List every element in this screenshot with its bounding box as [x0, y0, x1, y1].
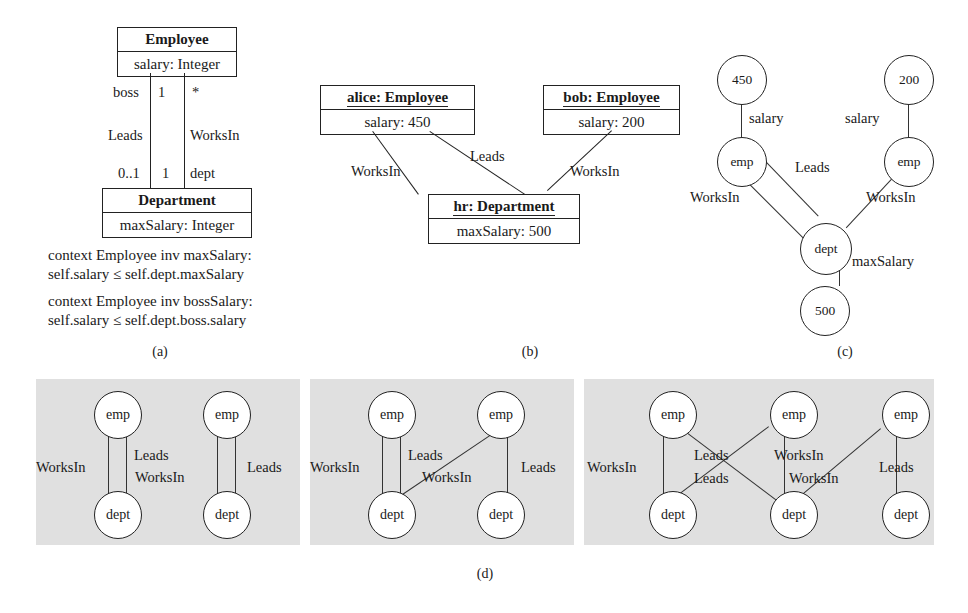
d1-node-emp-2[interactable]: emp [203, 391, 251, 439]
d1-edge-label-worksin-1: WorksIn [36, 459, 86, 475]
graph-node-emp-left[interactable]: emp [717, 137, 767, 187]
edge-label-salary-right: salary [845, 110, 880, 126]
d3-node-dept-2-label: dept [782, 507, 806, 523]
d2-node-emp-1-label: emp [380, 407, 404, 423]
graph-panel-d1: emp emp dept dept WorksIn Leads WorksIn … [36, 379, 300, 545]
graph-node-450[interactable]: 450 [717, 55, 767, 105]
object-slot-hr-maxsalary: maxSalary: 500 [429, 219, 579, 243]
graph-node-dept-label: dept [814, 241, 837, 257]
d1-node-dept-1[interactable]: dept [94, 491, 142, 539]
d3-node-emp-2-label: emp [782, 407, 806, 423]
graph-node-500-label: 500 [815, 303, 835, 319]
d1-node-emp-1-label: emp [106, 407, 130, 423]
object-box-alice[interactable]: alice: Employee salary: 450 [320, 85, 475, 135]
object-box-bob[interactable]: bob: Employee salary: 200 [543, 85, 680, 135]
d3-edge-label-leads-2: Leads [694, 470, 729, 486]
d3-edge-label-worksin-3: WorksIn [789, 470, 839, 486]
link-label-bob-worksin: WorksIn [570, 163, 620, 179]
d2-edge-label-worksin-2: WorksIn [422, 469, 472, 485]
caption-c: (c) [837, 344, 853, 360]
edge-450-emp1-salary [741, 102, 742, 137]
caption-b: (b) [522, 344, 538, 360]
d3-node-emp-3-label: emp [894, 407, 918, 423]
edge-label-worksin-right: WorksIn [866, 189, 916, 205]
d3-node-dept-1[interactable]: dept [649, 491, 697, 539]
d1-node-emp-2-label: emp [215, 407, 239, 423]
object-slot-alice-salary: salary: 450 [321, 110, 474, 134]
object-name-bob: bob: Employee [544, 86, 679, 110]
d1-node-dept-2-label: dept [215, 507, 239, 523]
d3-node-dept-2[interactable]: dept [770, 491, 818, 539]
graph-node-200-label: 200 [899, 72, 919, 88]
d3-node-emp-1-label: emp [661, 407, 685, 423]
d3-node-dept-3-label: dept [894, 507, 918, 523]
d3-node-dept-3[interactable]: dept [882, 491, 930, 539]
edge-label-worksin-left: WorksIn [690, 189, 740, 205]
graph-panel-d3: emp emp emp dept dept dept WorksIn Leads… [584, 379, 934, 545]
graph-node-450-label: 450 [732, 72, 752, 88]
graph-node-500[interactable]: 500 [800, 286, 850, 336]
d2-node-dept-1[interactable]: dept [368, 491, 416, 539]
edge-label-maxsalary: maxSalary [852, 253, 914, 269]
d2-edge-label-leads-2: Leads [521, 459, 556, 475]
d2-node-dept-2[interactable]: dept [477, 491, 525, 539]
object-name-alice: alice: Employee [321, 86, 474, 110]
d3-edge-emp2-dept1-leads [670, 426, 769, 501]
graph-node-dept[interactable]: dept [800, 223, 852, 275]
d3-node-dept-1-label: dept [661, 507, 685, 523]
d1-edge-label-worksin-2: WorksIn [135, 469, 185, 485]
link-label-alice-worksin: WorksIn [351, 163, 401, 179]
d3-edge-emp1-dept2-leads [679, 427, 778, 502]
link-label-alice-leads: Leads [470, 148, 505, 164]
graph-node-emp-left-label: emp [730, 154, 753, 170]
d3-edge-label-leads-3: Leads [879, 459, 914, 475]
graph-panel-d2: emp emp dept dept WorksIn Leads WorksIn … [310, 379, 574, 545]
d2-edge-label-worksin-1: WorksIn [310, 459, 360, 475]
d3-node-emp-3[interactable]: emp [882, 391, 930, 439]
d2-node-dept-2-label: dept [489, 507, 513, 523]
d2-node-emp-1[interactable]: emp [368, 391, 416, 439]
d1-edge-label-leads-2: Leads [247, 459, 282, 475]
object-box-hr[interactable]: hr: Department maxSalary: 500 [428, 194, 580, 244]
d1-node-dept-2[interactable]: dept [203, 491, 251, 539]
d1-edge-label-leads-1: Leads [134, 447, 169, 463]
link-line-bob-worksin [547, 130, 612, 191]
d1-node-dept-1-label: dept [106, 507, 130, 523]
d3-edge-label-worksin-2: WorksIn [774, 447, 824, 463]
object-name-hr: hr: Department [429, 195, 579, 219]
edge-label-salary-left: salary [749, 110, 784, 126]
edge-200-emp2-salary [908, 102, 909, 137]
object-diagram-b: alice: Employee salary: 450 bob: Employe… [0, 0, 700, 365]
edge-label-leads: Leads [795, 159, 830, 175]
d1-node-emp-1[interactable]: emp [94, 391, 142, 439]
d2-node-emp-2[interactable]: emp [477, 391, 525, 439]
caption-d: (d) [477, 566, 493, 582]
graph-node-emp-right-label: emp [897, 154, 920, 170]
d3-edge-label-leads-1: Leads [694, 447, 729, 463]
d3-node-emp-2[interactable]: emp [770, 391, 818, 439]
d2-node-dept-1-label: dept [380, 507, 404, 523]
d3-edge-label-worksin-1: WorksIn [587, 459, 637, 475]
d2-node-emp-2-label: emp [489, 407, 513, 423]
graph-c: 450 200 emp emp dept 500 salary salary L… [690, 55, 968, 355]
graph-node-emp-right[interactable]: emp [884, 137, 934, 187]
graph-node-200[interactable]: 200 [884, 55, 934, 105]
d3-node-emp-1[interactable]: emp [649, 391, 697, 439]
d2-edge-label-leads-1: Leads [408, 447, 443, 463]
